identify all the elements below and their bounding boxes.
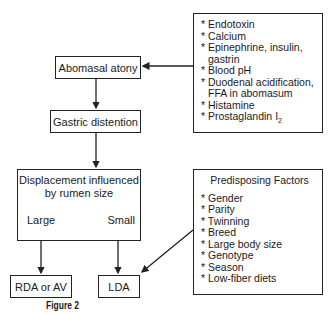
displacement-title-line1: Displacement influenced bbox=[18, 174, 140, 187]
lda-box: LDA bbox=[98, 275, 140, 298]
predisposing-box: Predisposing Factors * Gender * Parity *… bbox=[193, 169, 323, 295]
causes-box: * Endotoxin * Calcium * Epinephrine, ins… bbox=[193, 13, 323, 133]
factor-item: * Low-fiber diets bbox=[201, 273, 318, 285]
displacement-title-line2: by rumen size bbox=[18, 187, 140, 200]
cause-item: * Endotoxin bbox=[201, 19, 318, 31]
cause-item-continuation: FFA in abomasum bbox=[201, 88, 318, 100]
abomasal-atony-box: Abomasal atony bbox=[55, 56, 141, 79]
small-label: Small bbox=[107, 214, 135, 226]
subscript: 2 bbox=[278, 117, 282, 124]
cause-item: * Epinephrine, insulin, bbox=[201, 42, 318, 54]
factor-item: * Genotype bbox=[201, 250, 318, 262]
rda-box: RDA or AV bbox=[10, 275, 72, 298]
rda-label: RDA or AV bbox=[15, 281, 67, 293]
cause-item: * Blood pH bbox=[201, 65, 318, 77]
figure-caption: Figure 2 bbox=[46, 300, 79, 311]
lda-label: LDA bbox=[108, 281, 129, 293]
cause-item-text: * Prostaglandin I bbox=[201, 110, 278, 122]
factor-item: * Parity bbox=[201, 204, 318, 216]
large-label: Large bbox=[27, 214, 55, 226]
displacement-title: Displacement influenced by rumen size bbox=[18, 174, 140, 200]
gastric-distention-label: Gastric distention bbox=[53, 116, 138, 128]
abomasal-atony-label: Abomasal atony bbox=[59, 62, 138, 74]
factor-item: * Breed bbox=[201, 227, 318, 239]
predisposing-title: Predisposing Factors bbox=[201, 175, 318, 187]
displacement-box: Displacement influenced by rumen size La… bbox=[17, 169, 141, 241]
cause-item-prostaglandin: * Prostaglandin I2 bbox=[201, 111, 318, 127]
gastric-distention-box: Gastric distention bbox=[50, 110, 141, 133]
